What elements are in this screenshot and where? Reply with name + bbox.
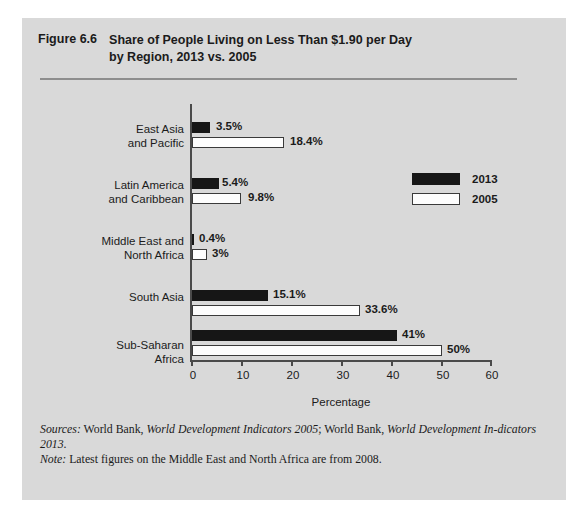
x-axis-tick xyxy=(441,360,443,366)
legend-label-2005: 2005 xyxy=(472,193,498,205)
legend-swatch-icon-2013 xyxy=(412,173,460,185)
bar-value-2005-sub-saharan-africa: 50% xyxy=(447,343,470,355)
x-axis-tick-label: 60 xyxy=(475,369,509,381)
bar-2005-sub-saharan-africa xyxy=(192,345,442,356)
x-axis-tick xyxy=(341,360,343,366)
bar-value-2013-sub-saharan-africa: 41% xyxy=(402,328,425,340)
category-label-line: and Pacific xyxy=(24,136,184,150)
bar-2013-east-asia-and-pacific xyxy=(192,122,210,133)
note-line: Note: Latest figures on the Middle East … xyxy=(40,452,540,467)
note-label: Note: xyxy=(40,452,66,466)
x-axis-tick xyxy=(191,360,193,366)
x-axis-tick xyxy=(241,360,243,366)
x-axis-title: Percentage xyxy=(190,396,492,408)
bar-2005-middle-east-and-north-africa xyxy=(192,249,207,260)
category-label-line: Sub-Saharan xyxy=(24,338,184,352)
bar-value-2013-latin-america-and-caribbean: 5.4% xyxy=(222,176,248,188)
x-axis-tick-label: 40 xyxy=(376,369,410,381)
bar-2005-south-asia xyxy=(192,305,360,316)
category-label-line: South Asia xyxy=(24,290,184,304)
bar-value-2013-south-asia: 15.1% xyxy=(273,288,306,300)
x-axis-tick xyxy=(291,360,293,366)
x-axis-tick-label: 10 xyxy=(226,369,260,381)
sources-publication-2a: World Development In- xyxy=(387,422,497,436)
x-axis-tick xyxy=(490,360,492,366)
bar-2013-sub-saharan-africa xyxy=(192,330,397,341)
category-label-line: Latin America xyxy=(24,178,184,192)
x-axis-tick-label: 30 xyxy=(326,369,360,381)
bar-value-2005-middle-east-and-north-africa: 3% xyxy=(212,247,229,259)
category-label-line: North Africa xyxy=(24,248,184,262)
bar-value-2013-east-asia-and-pacific: 3.5% xyxy=(216,120,242,132)
category-label-line: Africa xyxy=(24,352,184,366)
plot-area: 3.5% 18.4% 5.4% 9.8% 0.4% 3% 15.1% 33.6%… xyxy=(190,104,492,360)
sources-text-1: World Bank, xyxy=(81,422,147,436)
x-axis-tick-label: 20 xyxy=(276,369,310,381)
legend-label-2013: 2013 xyxy=(472,173,498,185)
chart-legend: 2013 2005 xyxy=(412,170,498,210)
note-text: Latest figures on the Middle East and No… xyxy=(66,452,381,466)
sources-note: Sources: World Bank, World Development I… xyxy=(40,422,540,451)
x-axis-tick-label: 50 xyxy=(426,369,460,381)
bar-2013-latin-america-and-caribbean xyxy=(192,178,219,189)
figure-footnotes: Sources: World Bank, World Development I… xyxy=(40,422,540,467)
bar-2005-east-asia-and-pacific xyxy=(192,137,284,148)
category-label-line: East Asia xyxy=(24,122,184,136)
bar-2005-latin-america-and-caribbean xyxy=(192,193,241,204)
figure-panel: Figure 6.6 Share of People Living on Les… xyxy=(22,18,566,500)
bar-value-2005-latin-america-and-caribbean: 9.8% xyxy=(248,191,274,203)
legend-item-2013: 2013 xyxy=(412,170,498,187)
bar-2013-middle-east-and-north-africa xyxy=(192,234,194,245)
x-axis: 0 10 20 30 40 50 60 xyxy=(190,360,496,400)
sources-label: Sources: xyxy=(40,422,81,436)
bar-2013-south-asia xyxy=(192,290,268,301)
x-axis-tick xyxy=(391,360,393,366)
sources-publication-1: World Development Indicators 2005 xyxy=(147,422,319,436)
bar-value-2005-south-asia: 33.6% xyxy=(365,303,398,315)
category-label-line: Middle East and xyxy=(24,234,184,248)
x-axis-tick-label: 0 xyxy=(176,369,210,381)
sources-text-end: . xyxy=(64,437,67,451)
bar-value-2005-east-asia-and-pacific: 18.4% xyxy=(290,135,323,147)
bar-value-2013-middle-east-and-north-africa: 0.4% xyxy=(199,232,225,244)
legend-item-2005: 2005 xyxy=(412,190,498,207)
legend-swatch-icon-2005 xyxy=(412,193,460,205)
sources-text-2: ; World Bank, xyxy=(318,422,387,436)
category-label-line: and Caribbean xyxy=(24,192,184,206)
